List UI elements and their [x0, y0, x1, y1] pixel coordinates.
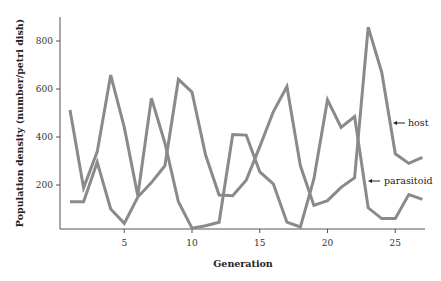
x-tick-label: 25 [390, 238, 402, 248]
parasitoid-annotation: parasitoid [368, 175, 433, 186]
x-tick-label: 15 [254, 238, 266, 248]
series-lines [70, 27, 422, 228]
y-tick-label: 200 [36, 180, 53, 190]
y-tick-label: 400 [36, 132, 53, 142]
x-tick-label: 10 [186, 238, 198, 248]
host-annotation: host [393, 117, 429, 128]
chart: 200400600800510152025 Generation Populat… [0, 0, 441, 281]
host-arrowhead-icon [393, 121, 397, 125]
host-label: host [408, 117, 429, 128]
y-tick-label: 800 [36, 36, 53, 46]
x-tick-label: 20 [322, 238, 334, 248]
x-axis-title: Generation [213, 258, 273, 269]
parasitoid-arrowhead-icon [368, 179, 372, 183]
parasitoid-line [70, 75, 422, 228]
y-axis-title: Population density (number/petri dish) [14, 19, 25, 227]
y-tick-label: 600 [36, 84, 53, 94]
parasitoid-label: parasitoid [384, 175, 433, 186]
x-tick-label: 5 [121, 238, 127, 248]
